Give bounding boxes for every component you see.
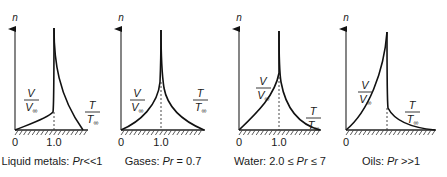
temperature-profile-curve [54, 28, 83, 130]
temperature-ratio-label-numerator: T [89, 99, 97, 111]
velocity-ratio-label-subscript-infinity: ∞ [33, 107, 38, 114]
temperature-ratio-label-subscript-infinity: ∞ [315, 125, 320, 132]
velocity-ratio-label: VV∞ [24, 87, 39, 114]
velocity-profile-curve [121, 30, 161, 130]
wall-hatching [239, 131, 319, 136]
tick-label-zero: 0 [118, 136, 124, 148]
panel-caption: Liquid metals: Pr<<1 [2, 155, 103, 167]
velocity-ratio-label-numerator: V [259, 75, 268, 87]
velocity-ratio-label-numerator: V [27, 87, 36, 99]
panel-caption: Oils: Pr >>1 [362, 155, 420, 167]
temperature-ratio-label: TT∞ [85, 99, 100, 126]
n-axis-label: n [236, 12, 242, 23]
n-axis-label: n [12, 12, 18, 23]
temperature-ratio-label: TT∞ [405, 99, 420, 126]
wall-hatching [346, 131, 435, 136]
tick-label-zero: 0 [236, 136, 242, 148]
temperature-profile-curve [161, 30, 204, 130]
panel-gases: nVV∞TT∞01.0Gases: Pr = 0.7 [118, 12, 208, 167]
panel-oils: nVV∞TT∞0Oils: Pr >>1 [343, 12, 436, 167]
panel-liquid-metals: nVV∞TT∞01.0Liquid metals: Pr<<1 [2, 12, 103, 167]
velocity-ratio-label-subscript-infinity: ∞ [265, 95, 270, 102]
velocity-ratio-label: VV∞ [256, 75, 271, 102]
velocity-ratio-label-numerator: V [133, 87, 142, 99]
n-axis-label: n [118, 12, 124, 23]
temperature-ratio-label-subscript-infinity: ∞ [202, 107, 207, 114]
tick-label-zero: 0 [12, 136, 18, 148]
panel-water: nVV∞TT∞01.0Water: 2.0 ≤ Pr ≤ 7 [234, 12, 326, 167]
temperature-ratio-label-subscript-infinity: ∞ [414, 119, 419, 126]
temperature-ratio-label: TT∞ [193, 87, 208, 114]
panel-caption: Water: 2.0 ≤ Pr ≤ 7 [234, 155, 326, 167]
wall-hatching [121, 131, 201, 136]
panel-caption: Gases: Pr = 0.7 [125, 155, 202, 167]
velocity-ratio-label: VV∞ [130, 87, 145, 114]
temperature-ratio-label-numerator: T [409, 99, 417, 111]
temperature-ratio-label-numerator: T [197, 87, 205, 99]
velocity-ratio-label-subscript-infinity: ∞ [139, 107, 144, 114]
tick-label-one: 1.0 [153, 136, 168, 148]
boundary-layer-profiles-figure: nVV∞TT∞01.0Liquid metals: Pr<<1nVV∞TT∞01… [0, 0, 447, 177]
temperature-ratio-label-numerator: T [310, 105, 318, 117]
temperature-ratio-label-subscript-infinity: ∞ [94, 119, 99, 126]
velocity-profile-curve [15, 28, 54, 130]
tick-label-one: 1.0 [271, 136, 286, 148]
n-axis-label: n [343, 12, 349, 23]
velocity-ratio-label: VV∞ [358, 79, 373, 106]
tick-label-zero: 0 [343, 136, 349, 148]
velocity-ratio-label-numerator: V [361, 79, 370, 91]
velocity-ratio-label-subscript-infinity: ∞ [367, 99, 372, 106]
temperature-ratio-label: TT∞ [306, 105, 321, 132]
tick-label-one: 1.0 [46, 136, 61, 148]
wall-hatching [15, 131, 87, 136]
